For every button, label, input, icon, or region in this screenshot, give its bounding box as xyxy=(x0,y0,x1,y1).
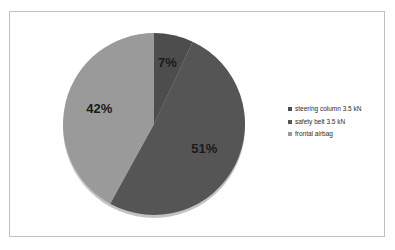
pie-slice-data-label: 51% xyxy=(191,141,217,156)
chart-legend: steering column 3.5 kN safety belt 3.5 k… xyxy=(288,106,392,144)
legend-swatch-safety-belt-icon xyxy=(288,120,292,124)
legend-label-safety-belt: safety belt 3.5 kN xyxy=(295,119,345,126)
plot-area: 7%51%42% xyxy=(10,12,280,238)
pie-slices xyxy=(63,33,245,215)
legend-item-safety-belt[interactable]: safety belt 3.5 kN xyxy=(288,119,392,126)
legend-swatch-steering-column-icon xyxy=(288,107,292,111)
pie-chart-figure: 7%51%42% steering column 3.5 kN safety b… xyxy=(0,0,395,250)
legend-label-frontal-airbag: frontal airbag xyxy=(295,131,333,138)
legend-label-steering-column: steering column 3.5 kN xyxy=(295,106,361,113)
pie-slice-data-label: 42% xyxy=(86,101,112,116)
chart-frame: 7%51%42% steering column 3.5 kN safety b… xyxy=(9,11,385,237)
legend-item-steering-column[interactable]: steering column 3.5 kN xyxy=(288,106,392,113)
pie-chart: 7%51%42% xyxy=(54,24,254,224)
pie-slice-data-label: 7% xyxy=(158,55,177,70)
legend-item-frontal-airbag[interactable]: frontal airbag xyxy=(288,131,392,138)
legend-swatch-frontal-airbag-icon xyxy=(288,132,292,136)
